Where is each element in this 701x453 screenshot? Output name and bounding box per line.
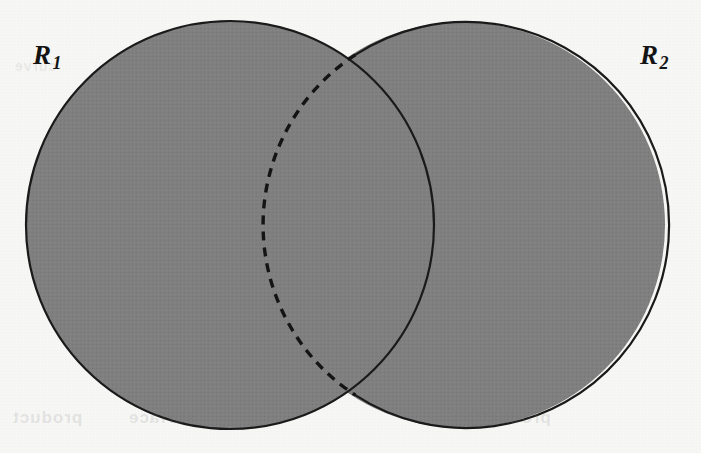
region-label-r1: R1 <box>33 42 61 69</box>
venn-diagram-figure: curve product surface production R1 R2 <box>0 0 701 453</box>
region-label-r2-base: R <box>640 40 659 70</box>
region-label-r2: R2 <box>640 42 668 69</box>
region-label-r1-base: R <box>33 40 52 70</box>
showthrough-text-bottom-left: product <box>12 408 82 428</box>
showthrough-text-bottom-mid: surface <box>128 408 195 428</box>
region-label-r2-subscript: 2 <box>660 53 670 73</box>
venn-diagram-svg <box>0 0 701 453</box>
showthrough-text-bottom-right: production <box>452 408 551 428</box>
region-label-r1-subscript: 1 <box>53 53 63 73</box>
